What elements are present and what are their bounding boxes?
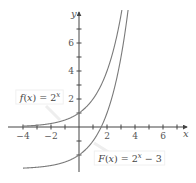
- curves: [23, 10, 128, 168]
- F-curve: [23, 10, 128, 168]
- F-label: F(x) = 2x − 3: [97, 152, 161, 164]
- y-tick-label: 2: [68, 94, 74, 104]
- label-leader: [46, 106, 60, 120]
- x-tick-label: 4: [132, 131, 138, 141]
- x-tick-label: 6: [160, 131, 166, 141]
- y-axis-label: y: [70, 8, 77, 19]
- y-tick-label: 6: [68, 38, 74, 48]
- x-tick-label: 2: [104, 131, 110, 141]
- x-axis-label: x: [183, 128, 189, 139]
- f-label: f(x) = 2x: [19, 91, 60, 103]
- y-axis-tick-labels: 246: [68, 38, 74, 104]
- exponential-graph: −4−2246 246 x y f(x) = 2xF(x) = 2x − 3: [0, 0, 196, 183]
- x-tick-label: −2: [44, 131, 57, 141]
- x-tick-label: −4: [16, 131, 30, 141]
- x-axis-tick-labels: −4−2246: [16, 131, 166, 141]
- y-tick-label: 4: [68, 66, 74, 76]
